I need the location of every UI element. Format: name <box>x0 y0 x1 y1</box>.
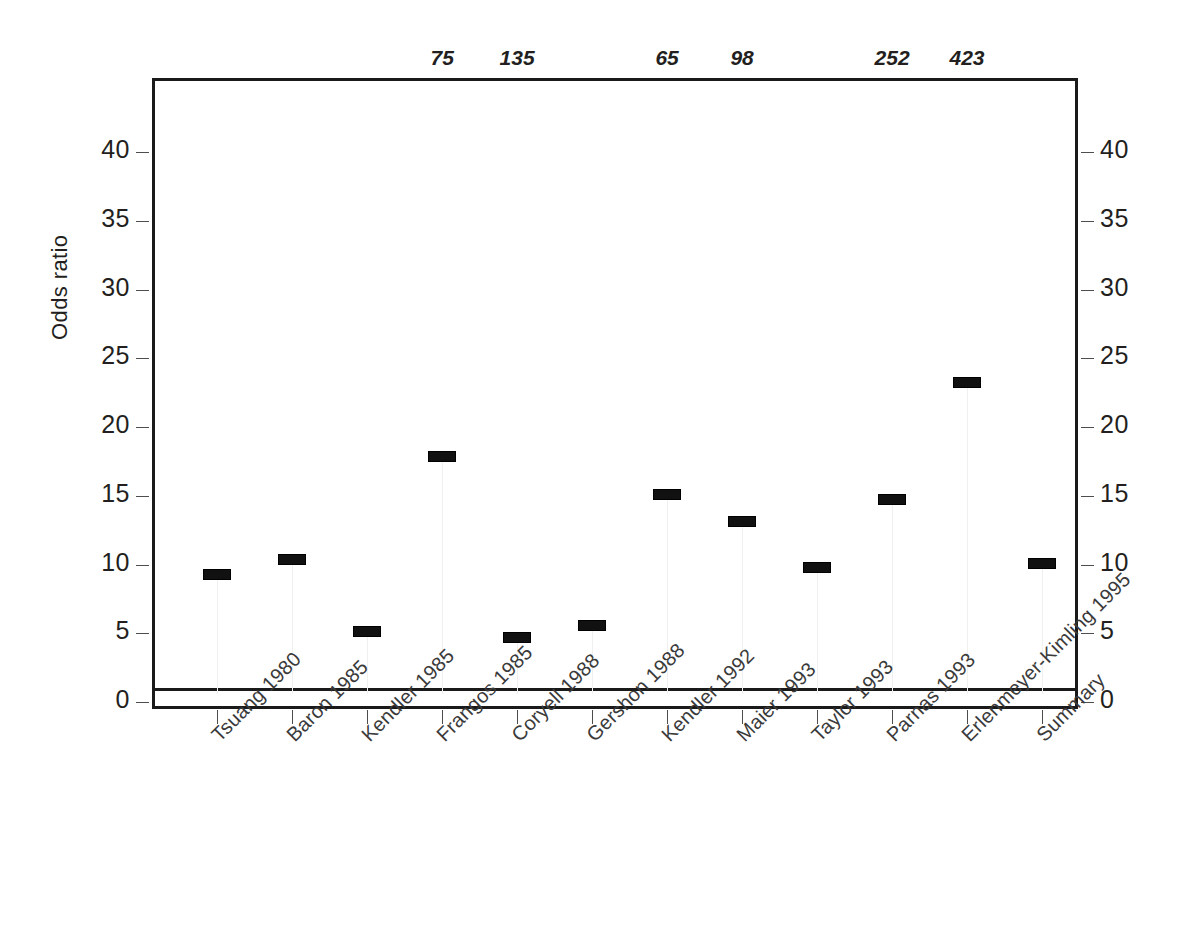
top-annotation: 423 <box>949 46 984 70</box>
y-tick-label-left: 25 <box>101 341 130 370</box>
y-tick-right <box>1081 221 1094 222</box>
y-tick-left <box>136 702 149 703</box>
y-tick-label-right: 35 <box>1100 204 1129 233</box>
drop-line <box>217 580 218 694</box>
data-marker <box>203 569 231 580</box>
y-tick-label-left: 0 <box>116 685 130 714</box>
y-tick-left <box>136 427 149 428</box>
plot-area <box>152 78 1078 709</box>
top-annotation: 75 <box>430 46 453 70</box>
top-annotation: 98 <box>730 46 753 70</box>
data-marker <box>1028 558 1056 569</box>
y-tick-label-left: 40 <box>101 135 130 164</box>
data-marker <box>803 562 831 573</box>
y-tick-left <box>136 290 149 291</box>
y-tick-label-right: 25 <box>1100 341 1129 370</box>
y-tick-left <box>136 633 149 634</box>
y-axis-title: Odds ratio <box>47 235 73 341</box>
y-tick-label-right: 5 <box>1100 616 1114 645</box>
y-tick-label-left: 15 <box>101 479 130 508</box>
y-tick-right <box>1081 496 1094 497</box>
data-marker <box>653 489 681 500</box>
top-annotation: 135 <box>500 46 535 70</box>
y-tick-left <box>136 358 149 359</box>
y-tick-label-left: 30 <box>101 273 130 302</box>
y-tick-label-right: 30 <box>1100 273 1129 302</box>
y-tick-label-left: 35 <box>101 204 130 233</box>
top-annotation: 252 <box>875 46 910 70</box>
y-tick-left <box>136 565 149 566</box>
y-tick-left <box>136 496 149 497</box>
data-marker <box>278 554 306 565</box>
y-tick-right <box>1081 290 1094 291</box>
y-tick-label-left: 20 <box>101 410 130 439</box>
y-tick-right <box>1081 427 1094 428</box>
data-marker <box>953 377 981 388</box>
data-marker <box>503 632 531 643</box>
y-tick-right <box>1081 358 1094 359</box>
y-tick-label-left: 10 <box>101 548 130 577</box>
y-tick-label-right: 20 <box>1100 410 1129 439</box>
y-tick-right <box>1081 565 1094 566</box>
data-marker <box>353 626 381 637</box>
data-marker <box>728 516 756 527</box>
data-marker <box>878 494 906 505</box>
forest-plot-figure: Odds ratio 00551010151520202525303035354… <box>0 0 1201 935</box>
drop-line <box>967 388 968 694</box>
y-tick-label-right: 40 <box>1100 135 1129 164</box>
top-annotation: 65 <box>655 46 678 70</box>
y-tick-label-right: 15 <box>1100 479 1129 508</box>
y-tick-left <box>136 152 149 153</box>
y-tick-right <box>1081 152 1094 153</box>
y-tick-left <box>136 221 149 222</box>
y-tick-label-left: 5 <box>116 616 130 645</box>
data-marker <box>578 620 606 631</box>
data-marker <box>428 451 456 462</box>
